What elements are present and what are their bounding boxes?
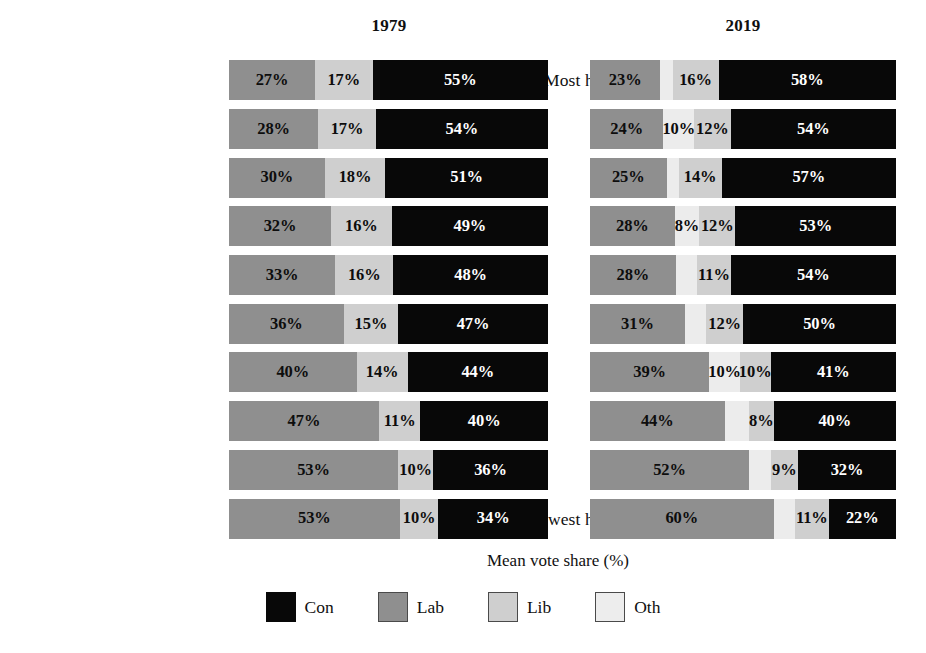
segment-value-label: 47% (288, 413, 321, 430)
segment-value-label: 10% (399, 462, 432, 479)
segment-value-label: 54% (445, 121, 478, 138)
stacked-bar-1979: 40%14%44% (229, 352, 548, 392)
stacked-bar-1979: 28%17%54% (229, 109, 548, 149)
chart-row: 53%10%36%52%9%32% (0, 446, 926, 495)
segment-value-label: 12% (696, 121, 729, 138)
bar-segment-con: 49% (392, 206, 548, 246)
stacked-bar-2019: 44%8%40% (590, 401, 896, 441)
chart-row: 30%18%51%25%14%57% (0, 153, 926, 202)
stacked-bar-2019: 28%8%12%53% (590, 206, 896, 246)
bar-segment-lab: 31% (590, 304, 685, 344)
stacked-bar-1979: 47%11%40% (229, 401, 548, 441)
bar-segment-lab: 40% (229, 352, 357, 392)
chart-row: 47%11%40%44%8%40% (0, 397, 926, 446)
bar-segment-con: 22% (829, 499, 896, 539)
bar-segment-oth: 8% (675, 206, 699, 246)
bar-segment-lab: 23% (590, 60, 660, 100)
bar-segment-con: 41% (771, 352, 896, 392)
bar-segment-lab: 39% (590, 352, 709, 392)
bar-segment-lab: 33% (229, 255, 335, 295)
segment-value-label: 17% (331, 121, 364, 138)
segment-value-label: 52% (653, 462, 686, 479)
segment-value-label: 54% (797, 121, 830, 138)
bar-segment-con: 54% (376, 109, 548, 149)
legend-label: Lab (417, 597, 444, 618)
segment-value-label: 28% (257, 121, 290, 138)
bar-segment-lab: 32% (229, 206, 331, 246)
legend-item-lab[interactable]: Lab (378, 592, 444, 622)
bar-segment-oth (676, 255, 697, 295)
segment-value-label: 47% (457, 316, 490, 333)
stacked-bar-2019: 25%14%57% (590, 158, 896, 198)
segment-value-label: 34% (477, 510, 510, 527)
legend-label: Lib (527, 597, 551, 618)
segment-value-label: 22% (846, 510, 879, 527)
legend-swatch-lab-icon (378, 592, 408, 622)
bar-segment-lab: 53% (229, 450, 398, 490)
legend-item-con[interactable]: Con (266, 592, 334, 622)
segment-value-label: 27% (256, 72, 289, 89)
bar-segment-lib: 14% (679, 158, 722, 198)
stacked-bar-2019: 24%10%12%54% (590, 109, 896, 149)
stacked-bar-1979: 30%18%51% (229, 158, 548, 198)
panel-title-1979: 1979 (229, 16, 549, 36)
segment-value-label: 16% (348, 267, 381, 284)
chart-row: Most home owners -27%17%55%23%16%58% (0, 56, 926, 105)
segment-value-label: 40% (468, 413, 501, 430)
segment-value-label: 12% (708, 316, 741, 333)
chart-row: 36%15%47%31%12%50% (0, 299, 926, 348)
legend-label: Oth (634, 597, 660, 618)
bar-segment-con: 54% (731, 255, 896, 295)
segment-value-label: 39% (633, 364, 666, 381)
bar-segment-lib: 9% (771, 450, 799, 490)
legend-item-oth[interactable]: Oth (595, 592, 660, 622)
bar-segment-con: 57% (722, 158, 896, 198)
bar-segment-oth: 10% (709, 352, 740, 392)
bar-segment-lab: 28% (229, 109, 318, 149)
bar-segment-con: 34% (438, 499, 548, 539)
stacked-bar-chart: 1979 2019 Most home owners -27%17%55%23%… (0, 0, 926, 653)
bar-segment-lab: 44% (590, 401, 725, 441)
bar-segment-con: 48% (393, 255, 548, 295)
segment-value-label: 11% (796, 510, 828, 527)
bar-segment-lib: 12% (706, 304, 743, 344)
segment-value-label: 8% (675, 218, 700, 235)
segment-value-label: 36% (270, 316, 303, 333)
bar-segment-con: 55% (373, 60, 548, 100)
segment-value-label: 10% (708, 364, 741, 381)
segment-value-label: 40% (276, 364, 309, 381)
segment-value-label: 16% (679, 72, 712, 89)
legend-swatch-con-icon (266, 592, 296, 622)
chart-row: 40%14%44%39%10%10%41% (0, 348, 926, 397)
bar-segment-con: 36% (433, 450, 548, 490)
x-axis-label-text: Mean vote share (%) (487, 551, 629, 570)
bar-segment-lab: 28% (590, 206, 675, 246)
chart-row: 28%17%54%24%10%12%54% (0, 105, 926, 154)
legend-item-lib[interactable]: Lib (488, 592, 551, 622)
bar-segment-lib: 16% (335, 255, 393, 295)
segment-value-label: 30% (260, 169, 293, 186)
bar-segment-oth (774, 499, 795, 539)
bar-segment-lib: 11% (697, 255, 731, 295)
bar-segment-lab: 52% (590, 450, 749, 490)
segment-value-label: 53% (799, 218, 832, 235)
segment-value-label: 40% (818, 413, 851, 430)
bar-segment-oth (725, 401, 749, 441)
segment-value-label: 41% (817, 364, 850, 381)
bar-segment-lib: 17% (318, 109, 375, 149)
segment-value-label: 24% (610, 121, 643, 138)
segment-value-label: 53% (298, 510, 331, 527)
bar-segment-con: 44% (408, 352, 548, 392)
bar-segment-lib: 18% (325, 158, 386, 198)
bar-segment-lab: 27% (229, 60, 315, 100)
stacked-bar-1979: 27%17%55% (229, 60, 548, 100)
bar-segment-lab: 60% (590, 499, 774, 539)
bar-segment-lib: 11% (795, 499, 829, 539)
segment-value-label: 33% (266, 267, 299, 284)
segment-value-label: 54% (797, 267, 830, 284)
segment-value-label: 32% (831, 462, 864, 479)
bar-segment-lab: 30% (229, 158, 325, 198)
segment-value-label: 36% (474, 462, 507, 479)
segment-value-label: 10% (403, 510, 436, 527)
bar-segment-lab: 28% (590, 255, 676, 295)
